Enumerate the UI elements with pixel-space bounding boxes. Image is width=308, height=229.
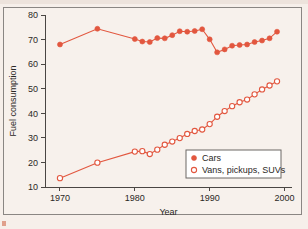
data-point <box>252 40 257 45</box>
data-point <box>230 104 235 109</box>
data-point <box>215 50 220 55</box>
legend-label: Vans, pickups, SUVs <box>202 165 286 175</box>
data-point <box>147 151 152 156</box>
x-axis-title: Year <box>159 207 177 217</box>
line-chart: 10203040506070801970198019902000YearFuel… <box>0 0 308 229</box>
data-point <box>244 97 249 102</box>
series-line-0 <box>60 29 277 53</box>
data-point <box>259 87 264 92</box>
data-point <box>95 26 100 31</box>
data-point <box>185 29 190 34</box>
data-point <box>162 36 167 41</box>
data-point <box>200 27 205 32</box>
data-point <box>192 128 197 133</box>
data-point <box>230 43 235 48</box>
data-point <box>95 160 100 165</box>
legend-marker-cars <box>192 156 197 161</box>
data-point <box>200 127 205 132</box>
y-axis-tick-label: 10 <box>28 182 38 192</box>
y-axis-tick-label: 40 <box>28 109 38 119</box>
data-point <box>260 38 265 43</box>
data-point <box>155 147 160 152</box>
data-point <box>274 79 279 84</box>
data-point <box>132 37 137 42</box>
data-point <box>170 139 175 144</box>
data-point <box>267 36 272 41</box>
data-point <box>222 108 227 113</box>
x-axis-tick-label: 1980 <box>125 193 145 203</box>
y-axis-tick-label: 70 <box>28 35 38 45</box>
y-axis-tick-label: 60 <box>28 59 38 69</box>
data-point <box>237 42 242 47</box>
figure-container: 10203040506070801970198019902000YearFuel… <box>0 0 308 229</box>
data-point <box>207 122 212 127</box>
legend-marker-vans <box>191 167 196 172</box>
data-point <box>237 100 242 105</box>
data-point <box>132 149 137 154</box>
data-point <box>275 29 280 34</box>
data-point <box>267 83 272 88</box>
y-axis-title: Fuel consumption <box>8 65 18 136</box>
data-point <box>57 42 62 47</box>
data-point <box>245 42 250 47</box>
y-axis-tick-label: 30 <box>28 133 38 143</box>
data-point <box>177 29 182 34</box>
data-point <box>140 39 145 44</box>
y-axis-tick-label: 80 <box>28 10 38 20</box>
data-point <box>140 149 145 154</box>
data-point <box>252 92 257 97</box>
data-point <box>192 28 197 33</box>
y-axis-tick-label: 20 <box>28 158 38 168</box>
data-point <box>207 37 212 42</box>
data-point <box>57 176 62 181</box>
data-point <box>147 40 152 45</box>
data-point <box>170 33 175 38</box>
data-point <box>185 131 190 136</box>
data-point <box>155 36 160 41</box>
data-point <box>222 47 227 52</box>
data-point <box>215 114 220 119</box>
x-axis-tick-label: 1990 <box>200 193 220 203</box>
data-point <box>162 142 167 147</box>
x-axis-tick-label: 1970 <box>50 193 70 203</box>
legend-label: Cars <box>202 153 222 163</box>
y-axis-tick-label: 50 <box>28 84 38 94</box>
data-point <box>177 136 182 141</box>
x-axis-tick-label: 2000 <box>274 193 294 203</box>
